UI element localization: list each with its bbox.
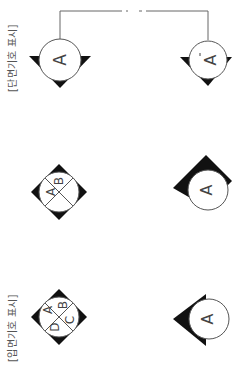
elev-letter-a: A [197, 184, 216, 195]
section-symbol-a: A [29, 39, 91, 88]
section-cut-line [60, 11, 208, 40]
elev-letter-c: C [63, 316, 77, 324]
elevation-symbol-two-arrow: A [173, 155, 232, 210]
elev-letter-b: B [56, 301, 70, 309]
symbol-legend-diagram: A A A B A B C D [0, 0, 232, 378]
section-symbol-a-prime: A [180, 41, 232, 86]
elev-letter-a: A [198, 313, 217, 324]
elev-letter-a: A [41, 305, 55, 314]
elevation-symbol-ab: A B [31, 164, 87, 220]
section-letter-a: A [50, 54, 70, 66]
elev-letter-a: A [44, 187, 58, 196]
elevation-symbol-single-arrow: A [173, 294, 229, 346]
section-letter-a-prime: A [201, 54, 220, 65]
elev-letter-d: D [48, 322, 62, 331]
elevation-symbol-abcd: A B C D [31, 289, 87, 345]
elev-letter-b: B [52, 177, 66, 185]
section-symbol-label: [단면기호 표시] [4, 24, 19, 92]
elevation-symbol-label: [입면기호 표시] [4, 294, 19, 362]
